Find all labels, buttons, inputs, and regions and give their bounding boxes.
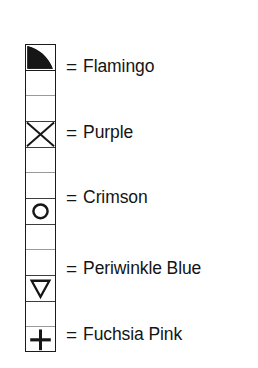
legend-entry-flamingo: = Flamingo xyxy=(66,57,154,76)
symbol-cell-purple xyxy=(26,122,55,148)
legend-entry-purple: = Purple xyxy=(66,123,133,142)
equals-sign: = xyxy=(66,123,77,142)
symbol-cell-empty xyxy=(26,225,55,251)
circle-outline-icon xyxy=(26,199,55,224)
symbol-cell-empty xyxy=(26,96,55,122)
legend-entry-periwinkle-blue: = Periwinkle Blue xyxy=(66,259,201,278)
filled-concave-triangle-icon xyxy=(26,45,55,70)
legend-label: Crimson xyxy=(83,189,147,207)
legend-label: Flamingo xyxy=(83,58,154,76)
equals-sign: = xyxy=(66,57,77,76)
symbol-cell-empty xyxy=(26,148,55,174)
symbol-cell-empty xyxy=(26,173,55,199)
legend-entry-fuchsia-pink: = Fuchsia Pink xyxy=(66,325,182,344)
symbol-cell-crimson xyxy=(26,199,55,225)
equals-sign: = xyxy=(66,325,77,344)
legend-label: Purple xyxy=(83,124,133,142)
symbol-cell-empty xyxy=(26,71,55,97)
equals-sign: = xyxy=(66,188,77,207)
legend-label: Fuchsia Pink xyxy=(83,326,182,344)
legend-label: Periwinkle Blue xyxy=(83,260,201,278)
symbol-column xyxy=(25,44,56,352)
symbol-cell-flamingo xyxy=(26,45,55,71)
equals-sign: = xyxy=(66,259,77,278)
legend-entry-crimson: = Crimson xyxy=(66,188,148,207)
symbol-cell-periwinkle-blue xyxy=(26,276,55,302)
symbol-cell-empty xyxy=(26,250,55,276)
x-cross-icon xyxy=(26,122,55,147)
symbol-cell-empty xyxy=(26,302,55,328)
down-triangle-icon xyxy=(26,276,55,301)
plus-cross-icon xyxy=(26,327,55,353)
legend-figure: = Flamingo = Purple = Crimson = Periwink… xyxy=(0,0,258,368)
symbol-cell-fuchsia-pink xyxy=(26,327,55,353)
